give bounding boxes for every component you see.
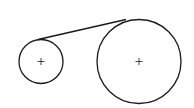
pulley-diagram <box>0 0 194 108</box>
small-circle-center-mark <box>38 58 45 65</box>
large-circle-center-mark <box>136 58 143 65</box>
